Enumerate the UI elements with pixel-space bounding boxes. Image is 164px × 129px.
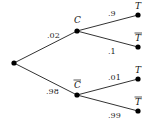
edge-Cbar-Tbar <box>77 95 138 111</box>
edge-prob-C-T: .9 <box>108 9 116 18</box>
edge-prob-Cbar-T: .01 <box>108 73 121 82</box>
edge-prob-root-C: .02 <box>47 31 60 40</box>
edge-root-C <box>14 31 77 63</box>
leaf-node-C-Tbar <box>135 44 140 49</box>
probability-tree-diagram: C.02C.98T.9T.1T.01T.99 <box>0 0 164 129</box>
leaf-label-Cbar-Tbar: T <box>135 97 142 107</box>
leaf-label-Cbar-T: T <box>135 65 142 75</box>
edge-C-Tbar <box>77 31 138 47</box>
edge-prob-C-Tbar: .1 <box>108 47 116 56</box>
leaf-node-Cbar-Tbar <box>135 108 140 113</box>
leaf-node-Cbar-T <box>135 76 140 81</box>
node-Cbar <box>74 92 79 97</box>
tree-nodes <box>11 12 140 113</box>
node-label-C: C <box>74 15 81 25</box>
leaf-node-C-T <box>135 12 140 17</box>
leaf-label-C-Tbar: T <box>135 33 142 43</box>
root-node <box>11 60 16 65</box>
tree-labels: C.02C.98T.9T.1T.01T.99 <box>46 1 142 120</box>
node-label-Cbar: C <box>74 80 81 90</box>
edge-prob-root-Cbar: .98 <box>46 87 59 96</box>
edge-prob-Cbar-Tbar: .99 <box>108 111 121 120</box>
leaf-label-C-T: T <box>135 1 142 11</box>
node-C <box>74 28 79 33</box>
